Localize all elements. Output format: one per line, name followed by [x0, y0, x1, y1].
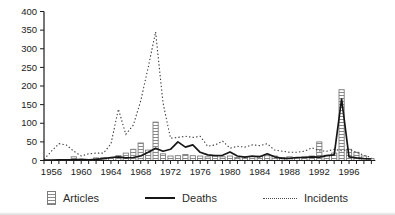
svg-text:0: 0 — [32, 155, 37, 166]
svg-text:1980: 1980 — [219, 166, 240, 177]
legend-item-deaths: Deaths — [145, 192, 217, 204]
svg-text:150: 150 — [21, 99, 37, 110]
incidents-line — [44, 32, 371, 159]
chart-area: 050100150200250300350400 195619601964196… — [0, 0, 395, 182]
svg-text:1988: 1988 — [279, 166, 300, 177]
y-axis-tick-labels: 050100150200250300350400 — [21, 6, 37, 166]
svg-text:350: 350 — [21, 24, 37, 35]
svg-text:300: 300 — [21, 43, 37, 54]
legend-label-incidents: Incidents — [304, 192, 348, 204]
svg-text:50: 50 — [26, 136, 37, 147]
x-axis-tick-labels: 1956196019641968197219761980198419881992… — [41, 161, 371, 177]
svg-text:1992: 1992 — [309, 166, 330, 177]
dotted-line-icon — [263, 198, 297, 199]
hatched-bar-icon — [47, 191, 56, 205]
svg-text:100: 100 — [21, 117, 37, 128]
svg-text:400: 400 — [21, 6, 37, 17]
svg-text:1964: 1964 — [100, 166, 121, 177]
chart-svg: 050100150200250300350400 195619601964196… — [0, 0, 395, 182]
svg-text:1972: 1972 — [160, 166, 181, 177]
svg-text:250: 250 — [21, 62, 37, 73]
svg-text:1960: 1960 — [71, 166, 92, 177]
page-edge-shadow — [0, 212, 395, 215]
figure-terrorism-chart: 050100150200250300350400 195619601964196… — [0, 0, 395, 215]
svg-text:200: 200 — [21, 80, 37, 91]
svg-text:1956: 1956 — [41, 166, 62, 177]
legend-label-deaths: Deaths — [182, 192, 217, 204]
svg-text:1984: 1984 — [249, 166, 270, 177]
articles-bars — [71, 90, 374, 161]
solid-line-icon — [145, 197, 175, 199]
chart-legend: Articles Deaths Incidents — [0, 188, 395, 208]
axes — [40, 12, 375, 161]
svg-text:1996: 1996 — [338, 166, 359, 177]
svg-text:1968: 1968 — [130, 166, 151, 177]
legend-item-incidents: Incidents — [263, 192, 348, 204]
svg-text:1976: 1976 — [190, 166, 211, 177]
legend-label-articles: Articles — [63, 192, 99, 204]
legend-item-articles: Articles — [47, 191, 99, 205]
